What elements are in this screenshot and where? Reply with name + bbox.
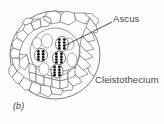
cleistothecium-label: Cleistothecium [95, 74, 159, 85]
ascus-3 [53, 51, 66, 65]
ascus-label: Ascus [113, 13, 139, 24]
cleistothecium-leader-line [88, 68, 94, 76]
ascus-1 [56, 37, 69, 52]
ascus-4 [51, 64, 63, 78]
cleistothecium-diagram [0, 0, 164, 124]
ascus-2 [35, 49, 48, 62]
panel-label: (b) [13, 101, 24, 111]
